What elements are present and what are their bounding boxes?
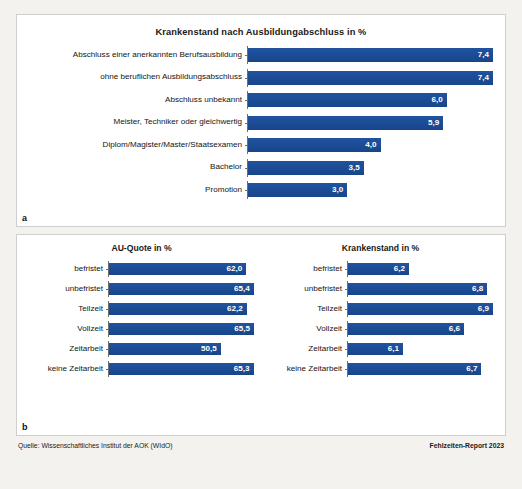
category-label: befristet [268,265,347,273]
bar-row: Abschluss einer anerkannten Berufsausbil… [29,46,493,64]
bar: 6,0 [248,93,447,107]
bar-value: 6,7 [466,365,477,373]
category-label: ohne beruflichen Ausbildungsabschluss [29,73,247,81]
bar-track: 50,5 [108,341,254,357]
bar-value: 6,2 [394,265,405,273]
bar-row: befristet 6,2 [268,261,493,277]
chart-krankenstand-vertrag: befristet 6,2 unbefristet [268,261,493,377]
bar-track: 65,4 [108,281,254,297]
bar-track: 65,5 [108,321,254,337]
bar-value: 6,0 [431,96,442,104]
bar: 62,2 [109,303,247,315]
bar-track: 7,4 [247,69,493,87]
bar: 65,5 [109,323,254,335]
bar: 65,4 [109,283,254,295]
category-label: Teilzeit [268,305,347,313]
bar-value: 62,2 [227,305,243,313]
bar: 6,8 [348,283,487,295]
bar-track: 4,0 [247,136,493,154]
bar: 6,7 [348,363,481,375]
category-label: keine Zeitarbeit [29,365,108,373]
bar: 3,5 [248,161,364,175]
subpanel-krankenstand-title: Krankenstand in % [268,243,493,253]
bar-row: Diplom/Magister/Master/Staatsexamen 4,0 [29,136,493,154]
bar-track: 3,5 [247,159,493,177]
panel-b-letter: b [22,422,28,432]
bar-row: Zeitarbeit 50,5 [29,341,254,357]
bar: 6,6 [348,323,464,335]
bar-track: 6,0 [247,91,493,109]
bar-row: Meister, Techniker oder gleichwertig 5,9 [29,114,493,132]
bar: 62,0 [109,263,246,275]
bar-value: 65,4 [234,285,250,293]
category-label: Abschluss unbekannt [29,96,247,104]
report-note: Fehlzeiten-Report 2023 [430,442,504,449]
panel-a: Krankenstand nach Ausbildungabschluss in… [16,14,506,227]
bar-track: 7,4 [247,46,493,64]
bar-value: 5,9 [428,118,439,126]
bar-value: 6,9 [478,305,489,313]
bar-value: 6,1 [388,345,399,353]
source-note: Quelle: Wissenschaftliches Institut der … [18,442,173,449]
bar: 50,5 [109,343,221,355]
category-label: Vollzeit [268,325,347,333]
bar-row: Promotion 3,0 [29,181,493,199]
bar-value: 7,4 [478,73,489,81]
bar-track: 62,2 [108,301,254,317]
bar-value: 65,3 [234,365,250,373]
chart-au-quote: befristet 62,0 unbefristet [29,261,254,377]
bar: 5,9 [248,116,443,130]
panel-a-letter: a [22,213,27,223]
bar-value: 6,6 [449,325,460,333]
bar-row: Bachelor 3,5 [29,159,493,177]
category-label: Zeitarbeit [268,345,347,353]
category-label: Diplom/Magister/Master/Staatsexamen [29,141,247,149]
bar-value: 4,0 [365,141,376,149]
category-label: Zeitarbeit [29,345,108,353]
bar: 7,4 [248,71,493,85]
subpanel-au-quote-title: AU-Quote in % [29,243,254,253]
bar-track: 6,9 [347,301,493,317]
bar: 3,0 [248,183,347,197]
bar-track: 3,0 [247,181,493,199]
bar-row: Teilzeit 62,2 [29,301,254,317]
bar-row: ohne beruflichen Ausbildungsabschluss 7,… [29,69,493,87]
bar-row: Teilzeit 6,9 [268,301,493,317]
bar-value: 7,4 [478,51,489,59]
category-label: befristet [29,265,108,273]
bar: 65,3 [109,363,254,375]
bar-row: Zeitarbeit 6,1 [268,341,493,357]
bar: 7,4 [248,48,493,62]
bar-row: Vollzeit 6,6 [268,321,493,337]
bar-value: 6,8 [472,285,483,293]
bar-row: Abschluss unbekannt 6,0 [29,91,493,109]
category-label: Vollzeit [29,325,108,333]
bar-value: 50,5 [201,345,217,353]
bar-track: 62,0 [108,261,254,277]
category-label: Teilzeit [29,305,108,313]
bar-row: keine Zeitarbeit 65,3 [29,361,254,377]
category-label: keine Zeitarbeit [268,365,347,373]
bar-row: unbefristet 6,8 [268,281,493,297]
category-label: Promotion [29,186,247,194]
bar-row: keine Zeitarbeit 6,7 [268,361,493,377]
bar-row: Vollzeit 65,5 [29,321,254,337]
bar-track: 6,1 [347,341,493,357]
bar: 6,2 [348,263,409,275]
panel-a-title: Krankenstand nach Ausbildungabschluss in… [29,27,493,37]
bar-value: 3,5 [349,163,360,171]
category-label: Bachelor [29,163,247,171]
bar-row: unbefristet 65,4 [29,281,254,297]
category-label: unbefristet [29,285,108,293]
subpanel-krankenstand: Krankenstand in % befristet 6,2 unbefris… [268,243,493,381]
bar-track: 6,6 [347,321,493,337]
category-label: Abschluss einer anerkannten Berufsausbil… [29,51,247,59]
bar: 6,9 [348,303,493,315]
bar-track: 65,3 [108,361,254,377]
figure-footer: Quelle: Wissenschaftliches Institut der … [16,442,506,449]
category-label: Meister, Techniker oder gleichwertig [29,118,247,126]
category-label: unbefristet [268,285,347,293]
bar-track: 6,7 [347,361,493,377]
bar-value: 62,0 [227,265,243,273]
bar-track: 6,8 [347,281,493,297]
